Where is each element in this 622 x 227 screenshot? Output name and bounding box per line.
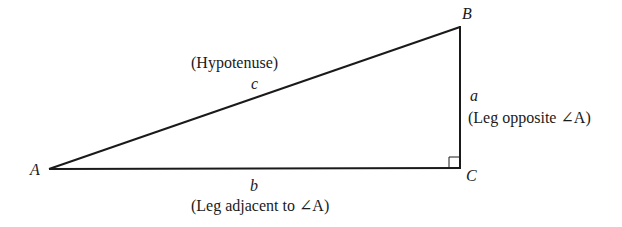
opposite-description: (Leg opposite ∠A): [468, 110, 591, 126]
hypotenuse-description: (Hypotenuse): [191, 55, 278, 71]
vertex-label-a: A: [30, 162, 40, 178]
right-angle-marker: [449, 157, 460, 168]
hypotenuse-side: [49, 27, 460, 169]
opposite-variable: a: [470, 88, 478, 104]
vertex-label-c: C: [466, 168, 477, 184]
adjacent-variable: b: [250, 178, 258, 194]
adjacent-side: [49, 168, 461, 169]
adjacent-description: (Leg adjacent to ∠A): [191, 198, 329, 214]
hypotenuse-variable: c: [251, 76, 258, 92]
vertex-label-b: B: [462, 6, 472, 22]
